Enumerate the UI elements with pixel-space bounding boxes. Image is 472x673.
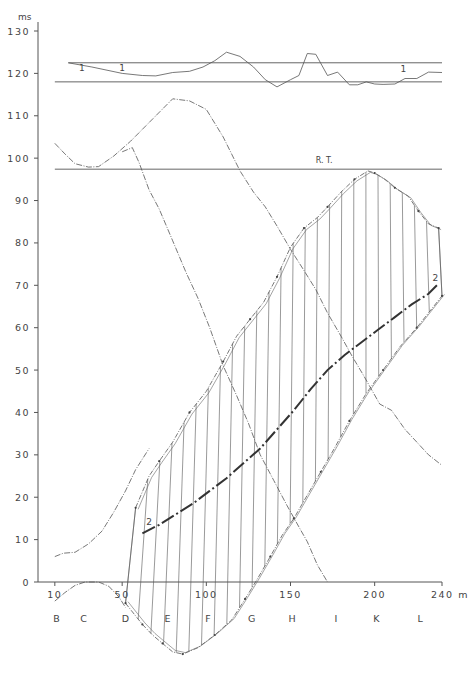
- envelope-point: [417, 210, 419, 212]
- series-curve: [55, 99, 442, 466]
- envelope-point: [158, 460, 160, 462]
- hatch-line: [390, 184, 391, 359]
- hatch-line: [341, 191, 342, 436]
- hatch-line: [315, 218, 317, 482]
- envelope-point: [353, 178, 355, 180]
- envelope-point: [161, 642, 163, 644]
- station-label: L: [417, 613, 423, 624]
- hatch-edge: [439, 228, 442, 296]
- hatch-line: [303, 227, 306, 503]
- station-label: F: [205, 613, 210, 624]
- envelope-point: [188, 411, 190, 413]
- y-tick-group: 0102030405060708090100110120130: [7, 26, 38, 588]
- station-label: I: [335, 613, 338, 624]
- station-label: C: [80, 613, 87, 624]
- y-axis: ms 0102030405060708090100110120130: [7, 12, 38, 588]
- y-tick-label: 30: [15, 449, 30, 460]
- hatch-line: [402, 193, 404, 343]
- y-tick-label: 100: [7, 153, 30, 164]
- y-tick-label: 80: [15, 237, 30, 248]
- envelope-point: [438, 227, 440, 229]
- y-tick-label: 110: [7, 110, 30, 121]
- y-tick-label: 60: [15, 322, 30, 333]
- envelope-point: [182, 653, 184, 655]
- envelope-point: [249, 318, 251, 320]
- station-label: K: [373, 613, 380, 624]
- annotations: 11122R. T.: [79, 63, 438, 527]
- envelope-point: [441, 295, 443, 297]
- envelope-companion: [138, 172, 441, 509]
- x-tick-label: 100: [195, 589, 218, 600]
- reference-lines: [55, 63, 442, 169]
- envelope-point: [374, 172, 376, 174]
- series-curve: [55, 449, 149, 557]
- curve-2: [142, 285, 437, 533]
- y-tick-label: 20: [15, 492, 30, 503]
- envelope-point: [293, 517, 295, 519]
- station-label: B: [53, 613, 60, 624]
- envelope-point: [269, 555, 271, 557]
- station-label: G: [248, 613, 255, 624]
- y-tick-label: 90: [15, 195, 30, 206]
- annotation-label: 1: [119, 63, 125, 73]
- hatch-line: [427, 221, 430, 311]
- y-tick-label: 0: [22, 577, 30, 588]
- x-tick-group: 1050100150200240 m: [47, 582, 469, 600]
- envelope-point: [348, 420, 350, 422]
- station-label: H: [289, 613, 296, 624]
- envelope-point: [135, 507, 137, 509]
- hatch-line: [265, 292, 269, 566]
- x-tick-label: 240 m: [431, 589, 469, 600]
- envelope-point: [394, 187, 396, 189]
- annotation-label: 2: [146, 517, 152, 527]
- station-labels: BCDEFGHIKL: [53, 613, 423, 624]
- station-label: D: [122, 613, 129, 624]
- hatch-line: [202, 388, 209, 645]
- hatch-line: [414, 205, 416, 328]
- envelope-curve: [126, 296, 443, 654]
- hatch-line: [189, 404, 196, 652]
- envelope-point: [382, 369, 384, 371]
- annotation-label: 1: [79, 63, 85, 73]
- envelope-point: [124, 602, 126, 604]
- y-tick-label: 120: [7, 68, 30, 79]
- travel-time-chart: ms 0102030405060708090100110120130 10501…: [0, 0, 472, 673]
- hatch-line: [176, 422, 184, 653]
- x-tick-label: 200: [363, 589, 386, 600]
- envelope-curve: [136, 171, 439, 508]
- hatch-edge: [126, 508, 136, 603]
- envelope-point: [303, 227, 305, 229]
- x-tick-label: 10: [47, 589, 62, 600]
- envelope-point: [244, 598, 246, 600]
- hatch-line: [277, 268, 281, 544]
- envelope-point: [214, 634, 216, 636]
- y-tick-label: 10: [15, 534, 30, 545]
- hatch-line: [328, 205, 330, 460]
- hatch-line: [290, 243, 293, 524]
- envelope-point: [416, 327, 418, 329]
- envelope-point: [320, 471, 322, 473]
- annotation-label: 2: [432, 273, 438, 283]
- hatch-line: [252, 311, 257, 588]
- y-unit-label: ms: [18, 12, 32, 22]
- hatch-line: [378, 175, 379, 376]
- annotation-label: 1: [400, 64, 406, 74]
- y-tick-label: 40: [15, 407, 30, 418]
- y-tick-label: 70: [15, 280, 30, 291]
- data-series: [55, 52, 445, 655]
- y-tick-label: 50: [15, 365, 30, 376]
- annotation-label: R. T.: [316, 156, 333, 165]
- hatched-zone: [126, 172, 443, 653]
- station-label: E: [165, 613, 171, 624]
- y-tick-label: 130: [7, 26, 30, 37]
- x-tick-label: 150: [279, 589, 302, 600]
- envelope-point: [141, 623, 143, 625]
- hatch-line: [138, 479, 148, 619]
- envelope-point: [326, 206, 328, 208]
- envelope-point: [276, 276, 278, 278]
- hatch-line: [151, 460, 160, 633]
- envelope-point: [222, 361, 224, 363]
